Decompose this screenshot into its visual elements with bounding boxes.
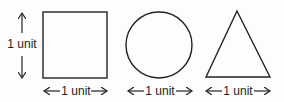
diagram-svg: 1 unit 1 unit 1 unit 1 unit xyxy=(0,0,284,102)
square-height-label: 1 unit xyxy=(7,37,37,51)
circle-shape xyxy=(126,12,192,78)
square-width-label: 1 unit xyxy=(61,84,91,98)
square-shape xyxy=(43,12,107,78)
triangle-shape xyxy=(206,11,270,77)
triangle-width-label: 1 unit xyxy=(223,84,253,98)
circle-width-label: 1 unit xyxy=(145,84,175,98)
shapes-diagram: 1 unit 1 unit 1 unit 1 unit xyxy=(0,0,284,102)
